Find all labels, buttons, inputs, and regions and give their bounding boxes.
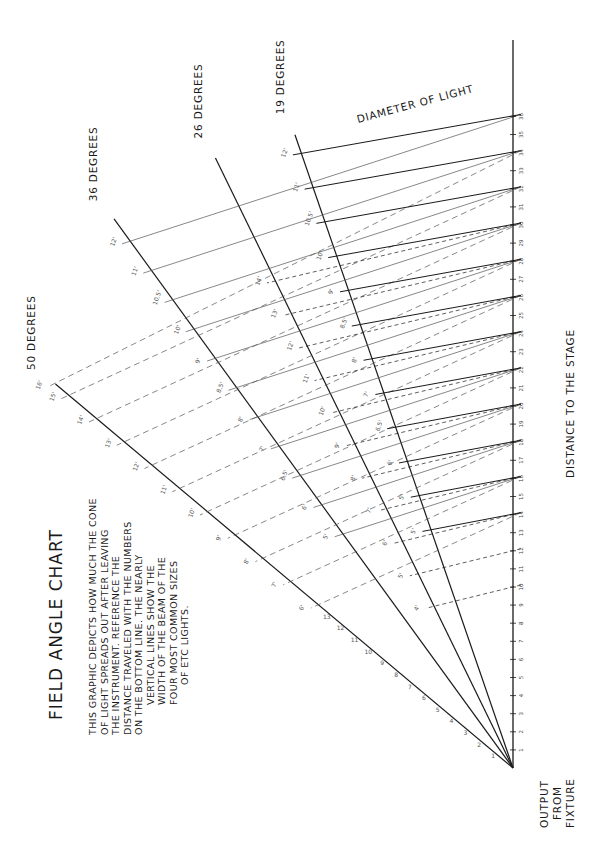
description-line: THIS GRAPHIC DEPICTS HOW MUCH THE CONE [87, 498, 98, 736]
tick-label: 30 [518, 221, 524, 228]
diameter-line [47, 151, 521, 387]
tick-label: 35 [518, 131, 524, 138]
beam-19-line [295, 135, 513, 768]
diameter-value: 8' [236, 415, 245, 423]
diameter-line [61, 187, 521, 399]
diameter-value: 12' [279, 147, 289, 158]
tick-label: 2 [518, 730, 524, 734]
diameter-line [311, 513, 521, 609]
diameter-line [117, 259, 521, 445]
description-line: OF LIGHT SPREADS OUT AFTER LEAVING [99, 529, 110, 735]
tick-label: 10 [518, 583, 524, 590]
diameter-value: 13' [269, 307, 279, 318]
description-line: DISTANCE TRAVELED WITH THE NUMBERS [122, 521, 133, 735]
diameter-value: 12' [131, 460, 141, 471]
diameter-value: 7' [270, 580, 279, 588]
diameter-value: 6' [385, 458, 394, 466]
tick-label: 13 [518, 529, 524, 536]
origin-label-line: FIXTURE [564, 778, 576, 828]
tick-label: 11 [518, 565, 524, 572]
diameter-line [387, 404, 521, 429]
tick-label: 31 [518, 203, 524, 210]
diameter-value: 7' [364, 506, 373, 514]
description-line: ON THE BOTTOM LINE. THE NEARLY [133, 554, 144, 735]
description-line: VERTICAL LINES SHOW THE [145, 565, 156, 705]
diameter-value: 6.5' [279, 468, 290, 481]
diameter-value: 11' [159, 484, 169, 495]
diameter-line [228, 404, 521, 538]
tick-label: 29 [518, 239, 524, 246]
tick-label: 26 [518, 293, 524, 300]
description-line: THE INSTRUMENT. REFERENCE THE [110, 556, 121, 736]
tick-label: 34 [518, 149, 524, 156]
svg-text:1: 1 [491, 752, 495, 759]
diameter-line [394, 513, 521, 544]
tick-label: 6 [518, 657, 524, 661]
tick-label: 23 [518, 348, 524, 355]
diameter-line [364, 332, 521, 361]
diameter-line [186, 223, 521, 332]
diameter-line [346, 404, 521, 446]
diameter-line [122, 114, 521, 243]
diameter-title: DIAMETER OF LIGHT [355, 82, 474, 125]
distance-axis: 1234567891011121314151617181920212223242… [510, 40, 524, 768]
tick-label: 21 [518, 384, 524, 391]
diameter-value: 11' [130, 265, 140, 276]
svg-text:10: 10 [365, 648, 373, 655]
diameter-value: 9' [193, 356, 202, 364]
svg-text:6: 6 [422, 694, 426, 701]
tick-label: 12 [518, 547, 524, 554]
description-line: OF ETC LIGHTS. [179, 605, 190, 685]
tick-label: 20 [518, 402, 524, 409]
diameter-value: 6' [297, 604, 306, 612]
svg-text:2: 2 [477, 741, 481, 748]
tick-label: 7 [518, 639, 524, 643]
diameter-value: 9' [326, 287, 335, 295]
diameter-line [305, 151, 521, 190]
tick-label: 24 [518, 330, 524, 337]
description-line: FOUR MOST COMMON SIZES [168, 561, 179, 705]
diameter-line [292, 404, 521, 478]
diameter-value: 11' [301, 372, 311, 383]
angle-labels: 50 DEGREES36 DEGREES26 DEGREES19 DEGREES [25, 39, 286, 370]
diameter-value: 8.5' [215, 380, 226, 393]
tick-label: 9 [518, 603, 524, 607]
diameter-value: 6' [300, 503, 309, 511]
angle-label: 19 DEGREES [274, 39, 286, 114]
diameter-value: 13' [103, 437, 113, 448]
diameter-line [313, 440, 521, 507]
tick-label: 18 [518, 438, 524, 445]
diameter-line [352, 295, 521, 326]
diameter-value: 6.5' [374, 419, 385, 432]
diameter-value: 14' [253, 275, 263, 286]
diameter-value: 12' [108, 236, 118, 247]
beam-26-line [215, 158, 513, 768]
diameter-value: 5' [409, 527, 418, 535]
tick-label: 1 [518, 748, 524, 752]
diameter-value: 7' [257, 444, 266, 452]
svg-text:8: 8 [394, 671, 398, 678]
diameter-value: 10' [317, 405, 327, 416]
origin-label: OUTPUTFROMFIXTURE [538, 778, 576, 828]
diameter-value: 16' [34, 379, 44, 390]
field-angle-chart: 12345678910111213 6'7'8'9'10'11'12'13'14… [0, 0, 600, 862]
description-line: WIDTH OF THE BEAM OF THE [156, 557, 167, 705]
diameter-value: 8' [349, 474, 358, 482]
tick-label: 22 [518, 366, 524, 373]
title-block: FIELD ANGLE CHART [46, 529, 66, 720]
svg-text:4: 4 [450, 717, 454, 724]
axis-title: DISTANCE TO THE STAGE [564, 329, 576, 478]
svg-text:5: 5 [436, 706, 440, 713]
diameter-line [340, 259, 521, 292]
diameter-value: 5' [397, 493, 406, 501]
diameter-value: 5' [321, 532, 330, 540]
tick-label: 14 [518, 511, 524, 518]
diameter-value: 10.5' [151, 289, 163, 306]
angle-label: 26 DEGREES [192, 64, 204, 139]
diameter-value: 10' [172, 324, 182, 335]
svg-text:DISTANCE TO THE STAGE: DISTANCE TO THE STAGE [564, 329, 576, 478]
diameter-line [299, 295, 521, 348]
tick-label: 36 [518, 112, 524, 119]
diameter-line [330, 368, 521, 413]
tick-label: 4 [518, 693, 524, 697]
